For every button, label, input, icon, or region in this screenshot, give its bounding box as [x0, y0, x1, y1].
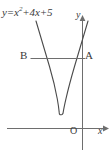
- equation-prefix: y=x: [2, 6, 19, 18]
- equation-suffix: +4x+5: [22, 6, 52, 18]
- origin-label: O: [70, 126, 77, 136]
- figure-canvas: [0, 0, 112, 160]
- point-label-a: A: [85, 50, 93, 61]
- x-axis-arrow-icon: [103, 126, 109, 132]
- equation-label: y=x2+4x+5: [2, 7, 53, 18]
- parabola-curve: [36, 21, 88, 115]
- x-axis-label: x: [98, 126, 102, 136]
- math-figure: y=x2+4x+5 y x B A O: [0, 0, 112, 160]
- y-axis: [80, 15, 86, 150]
- x-axis: [7, 126, 109, 132]
- y-axis-label: y: [76, 10, 80, 20]
- point-label-b: B: [20, 50, 27, 61]
- y-axis-arrow-icon: [80, 15, 86, 21]
